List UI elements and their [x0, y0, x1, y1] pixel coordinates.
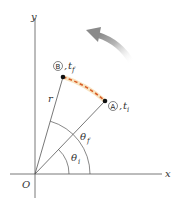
svg-text:θ: θ [71, 152, 77, 163]
radius-label: r [48, 93, 54, 104]
theta-i-label: θ i [71, 152, 80, 166]
y-axis-label: y [30, 11, 37, 22]
path-glow [63, 77, 105, 101]
point-a [103, 99, 108, 104]
svg-text:f: f [86, 137, 91, 145]
theta-i-arc [59, 150, 69, 175]
angular-position-diagram: y x O r θ f θ i B , t f A , t i [0, 0, 182, 203]
point-b [61, 75, 66, 80]
svg-text:θ: θ [80, 131, 86, 142]
point-b-label: B , t f [54, 60, 77, 74]
origin-label: O [22, 179, 30, 190]
svg-text:B: B [56, 63, 61, 71]
rotation-arrow-icon [86, 27, 132, 63]
svg-text:i: i [78, 158, 80, 166]
x-axis-label: x [165, 168, 171, 179]
theta-f-arc [50, 121, 90, 174]
axes: y x O [10, 11, 171, 198]
svg-text:f: f [71, 66, 76, 74]
svg-text:A: A [111, 103, 116, 111]
svg-text:,: , [119, 100, 122, 111]
svg-text:i: i [127, 106, 129, 114]
svg-text:,: , [64, 60, 67, 71]
point-a-label: A , t i [109, 100, 130, 114]
theta-f-label: θ f [80, 131, 91, 145]
